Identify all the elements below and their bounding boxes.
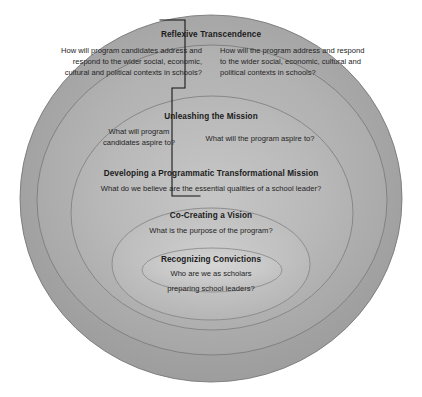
level-reflexive-transcendence: Reflexive Transcendence How will program… bbox=[0, 30, 422, 79]
level-1-title: Reflexive Transcendence bbox=[0, 30, 422, 40]
level-2-question-candidates: What will program candidates aspire to? bbox=[100, 127, 188, 149]
level-1-question-program: How will the program address and respond… bbox=[211, 46, 372, 78]
level-3-question: What do we believe are the essential qua… bbox=[0, 184, 422, 195]
level-1-question-candidates: How will program candidates address and … bbox=[50, 46, 211, 78]
level-3-title: Developing a Programmatic Transformation… bbox=[0, 169, 422, 179]
level-5-title: Recognizing Convictions bbox=[0, 255, 422, 265]
level-5-question-line-1: Who are we as scholars bbox=[0, 269, 422, 280]
level-2-question-program: What will the program aspire to? bbox=[188, 127, 322, 145]
level-co-creating-a-vision: Co-Creating a Vision What is the purpose… bbox=[0, 211, 422, 237]
level-2-title: Unleashing the Mission bbox=[0, 112, 422, 122]
level-recognizing-convictions: Recognizing Convictions Who are we as sc… bbox=[0, 255, 422, 295]
level-4-title: Co-Creating a Vision bbox=[0, 211, 422, 221]
level-4-question: What is the purpose of the program? bbox=[0, 226, 422, 237]
level-5-question-line-2: preparing school leaders? bbox=[0, 284, 422, 295]
level-unleashing-the-mission: Unleashing the Mission What will program… bbox=[0, 112, 422, 149]
level-developing-programmatic-mission: Developing a Programmatic Transformation… bbox=[0, 169, 422, 195]
